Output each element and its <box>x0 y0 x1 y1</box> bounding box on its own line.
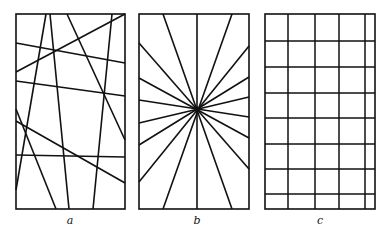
line <box>67 14 125 140</box>
panel-c-label: c <box>317 214 323 227</box>
panel-c-grid <box>265 14 375 209</box>
panel-b-radiating-lines <box>139 14 249 209</box>
center-point <box>195 107 200 112</box>
line <box>16 155 125 157</box>
line <box>50 14 69 209</box>
line <box>139 43 249 169</box>
panel-a-random-lines <box>16 14 125 209</box>
panel-b-label: b <box>193 214 200 227</box>
panel-frame <box>265 14 375 209</box>
panel-a-label: a <box>67 214 74 227</box>
line <box>16 14 46 190</box>
line <box>93 14 112 209</box>
diagram-figure <box>0 0 391 232</box>
